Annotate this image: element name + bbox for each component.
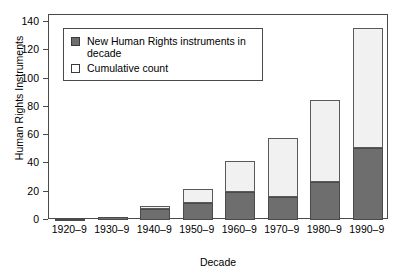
x-axis-tick-label: 1970–9: [261, 223, 304, 235]
bar-19409: [140, 206, 170, 220]
y-axis-tick-label: 100: [0, 72, 39, 84]
bar-segment-cumulative: [310, 100, 340, 182]
legend-item: New Human Rights instruments in decade: [71, 35, 255, 59]
filled-gray-square-icon: [71, 37, 80, 46]
legend-item-label: New Human Rights instruments in decade: [87, 35, 246, 59]
bar-19909: [353, 28, 383, 220]
bar-19709: [268, 138, 298, 220]
bar-19309: [98, 217, 128, 220]
chart-legend: New Human Rights instruments in decade C…: [63, 28, 263, 81]
bar-19509: [183, 189, 213, 220]
y-axis-tick-label: 60: [0, 128, 39, 140]
y-axis-tick-label: 40: [0, 156, 39, 168]
bar-segment-new-in-decade: [310, 182, 340, 220]
x-axis-tick-label: 1920–9: [48, 223, 91, 235]
y-axis-tick-label: 120: [0, 43, 39, 55]
bar-segment-new-in-decade: [183, 203, 213, 220]
legend-item: Cumulative count: [71, 62, 255, 74]
bar-segment-cumulative: [225, 161, 255, 192]
x-axis-tick-label: 1980–9: [303, 223, 346, 235]
open-white-square-icon: [71, 64, 80, 73]
bar-segment-new-in-decade: [55, 219, 85, 221]
legend-label-line1: New Human Rights instruments in: [87, 35, 246, 47]
bar-segment-new-in-decade: [140, 209, 170, 220]
bar-segment-new-in-decade: [225, 192, 255, 220]
bar-19609: [225, 161, 255, 220]
x-axis-tick-label: 1950–9: [176, 223, 219, 235]
bar-segment-cumulative: [183, 189, 213, 203]
y-axis-tick-label: 140: [0, 15, 39, 27]
bar-segment-cumulative: [268, 138, 298, 197]
chart-figure: Human Rights Instruments Decade 02040608…: [0, 0, 398, 277]
bar-segment-new-in-decade: [98, 217, 128, 220]
x-axis-tick-label: 1960–9: [218, 223, 261, 235]
bar-segment-new-in-decade: [353, 148, 383, 220]
y-axis-tick-label: 20: [0, 185, 39, 197]
x-axis-tick-label: 1990–9: [346, 223, 389, 235]
y-axis-tick-mark: [43, 219, 48, 220]
legend-label-line2: decade: [87, 47, 121, 59]
legend-item-label: Cumulative count: [87, 62, 168, 74]
bar-19209: [55, 219, 85, 220]
x-axis-tick-label: 1930–9: [91, 223, 134, 235]
y-axis-tick-label: 80: [0, 100, 39, 112]
bar-segment-new-in-decade: [268, 197, 298, 220]
bar-19809: [310, 100, 340, 220]
bar-segment-cumulative: [353, 28, 383, 148]
x-axis-tick-label: 1940–9: [133, 223, 176, 235]
y-axis-tick-label: 0: [0, 213, 39, 225]
